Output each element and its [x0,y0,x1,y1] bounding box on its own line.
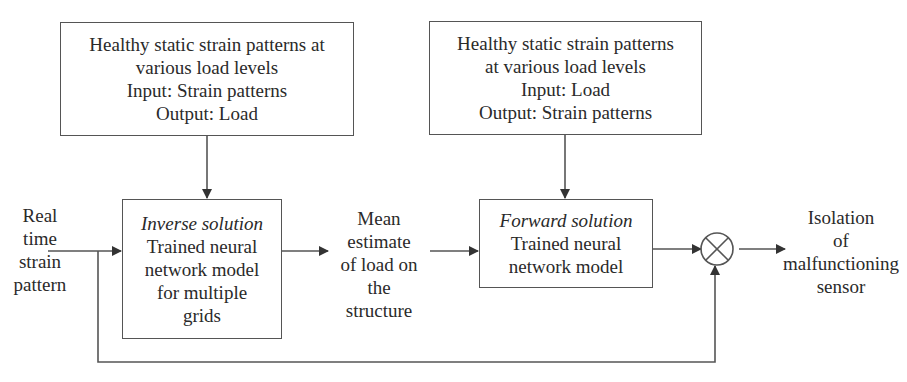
box-text-line: network model [509,255,624,278]
label-line: of load on [328,253,430,276]
label-line: sensor [778,275,904,298]
forward-solution-box: Forward solution Trained neural network … [479,199,653,288]
box-text-line: at various load levels [485,55,646,78]
label-line: estimate [328,230,430,253]
label-line: time [0,227,80,250]
inverse-solution-title: Inverse solution [141,212,263,235]
box-text-line: Healthy static strain patterns [457,32,674,55]
box-text-line: Input: Strain patterns [127,79,287,102]
inverse-solution-box: Inverse solution Trained neural network … [122,199,282,339]
label-line: Real [0,204,80,227]
box-text-line: grids [183,304,221,327]
box-text-line: Output: Load [156,102,258,125]
label-line: Isolation [778,206,904,229]
label-line: of [778,229,904,252]
input-label: Real time strain pattern [0,204,80,296]
label-line: Mean [328,207,430,230]
training-data-box-forward: Healthy static strain patterns at variou… [429,21,702,135]
box-text-line: Output: Strain patterns [479,101,652,124]
label-line: pattern [0,273,80,296]
box-text-line: various load levels [136,56,278,79]
training-data-box-inverse: Healthy static strain patterns at variou… [60,22,354,136]
output-label: Isolation of malfunctioning sensor [778,206,904,298]
label-line: strain [0,250,80,273]
box-text-line: network model [145,258,260,281]
box-text-line: for multiple [157,281,247,304]
box-text-line: Healthy static strain patterns at [89,33,324,56]
box-text-line: Trained neural [147,235,258,258]
label-line: structure [328,299,430,322]
label-line: malfunctioning [778,252,904,275]
label-line: the [328,276,430,299]
box-text-line: Trained neural [511,232,622,255]
box-text-line: Input: Load [521,78,610,101]
mean-estimate-label: Mean estimate of load on the structure [328,207,430,322]
forward-solution-title: Forward solution [500,209,633,232]
